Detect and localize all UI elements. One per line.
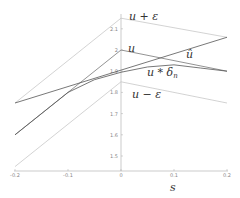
label-u-plus-eps: u + ε [129, 10, 158, 23]
y-tick-label: 2 [115, 47, 118, 53]
label-u-conv-main: u * δ [147, 66, 174, 79]
y-tick-label: 2.1 [110, 26, 118, 32]
label-u-conv: u * δn [147, 66, 178, 80]
x-tick-label: 0.2 [223, 172, 231, 178]
label-u-hat: û [186, 48, 193, 61]
label-u-minus-eps: u − ε [132, 88, 161, 101]
x-tick-label: 0 [119, 172, 122, 178]
label-u-conv-sub: n [173, 72, 178, 80]
x-tick-label: -0.2 [10, 172, 20, 178]
x-axis-label: s [170, 181, 176, 194]
y-tick-label: 1.8 [110, 89, 118, 95]
ticks: -0.2-0.100.10.21.51.61.71.81.922.1 [10, 26, 231, 178]
y-tick-label: 1.7 [110, 111, 118, 117]
x-tick-label: 0.1 [170, 172, 178, 178]
line-chart: -0.2-0.100.10.21.51.61.71.81.922.1 u + ε… [0, 0, 240, 198]
y-tick-label: 1.6 [110, 132, 118, 138]
y-tick-label: 1.5 [110, 153, 118, 159]
x-tick-label: -0.1 [63, 172, 73, 178]
label-u: u [128, 42, 135, 55]
